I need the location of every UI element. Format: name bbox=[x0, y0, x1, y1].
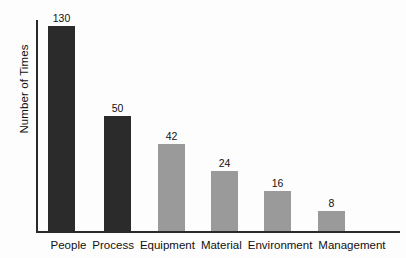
bar-rect[interactable] bbox=[158, 144, 185, 231]
x-tick-label: Process bbox=[89, 236, 137, 254]
bar-value-label: 130 bbox=[53, 12, 71, 24]
bar-group[interactable]: 50 bbox=[104, 116, 131, 231]
bar-rect[interactable] bbox=[211, 171, 238, 231]
bar-group[interactable]: 24 bbox=[211, 171, 238, 231]
bar-group[interactable]: 130 bbox=[48, 26, 75, 231]
bar-value-label: 24 bbox=[219, 157, 231, 169]
bar-rect[interactable] bbox=[104, 116, 131, 231]
x-tick-label: Equipment bbox=[137, 236, 198, 254]
plot-area: 130504224168 bbox=[38, 20, 400, 231]
x-tick-label: Environment bbox=[245, 236, 316, 254]
x-axis-tick-labels: PeopleProcessEquipmentMaterialEnvironmen… bbox=[36, 236, 400, 254]
bar-value-label: 8 bbox=[329, 197, 335, 209]
bar-group[interactable]: 8 bbox=[318, 211, 345, 231]
y-axis-title: Number of Times bbox=[15, 19, 33, 159]
x-tick-label: People bbox=[48, 236, 90, 254]
bar-value-label: 16 bbox=[272, 177, 284, 189]
x-tick-label: Material bbox=[198, 236, 245, 254]
bar-rect[interactable] bbox=[48, 26, 75, 231]
x-axis-line bbox=[36, 231, 400, 233]
bar-rect[interactable] bbox=[264, 191, 291, 231]
bar-group[interactable]: 42 bbox=[158, 144, 185, 231]
bar-group[interactable]: 16 bbox=[264, 191, 291, 231]
bar-value-label: 50 bbox=[112, 102, 124, 114]
bar-value-label: 42 bbox=[166, 130, 178, 142]
x-tick-label: Management bbox=[315, 236, 388, 254]
bar-rect[interactable] bbox=[318, 211, 345, 231]
bar-chart-figure: Number of Times 130504224168 PeopleProce… bbox=[0, 0, 406, 258]
